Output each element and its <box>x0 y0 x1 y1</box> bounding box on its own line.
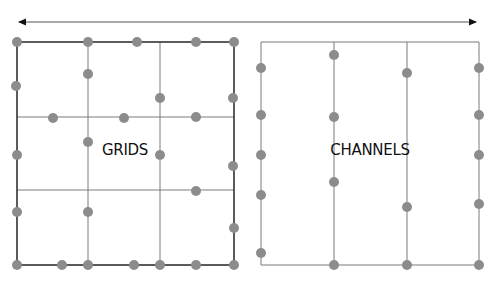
node-dot <box>191 186 201 196</box>
node-dot <box>83 69 93 79</box>
node-dot <box>83 260 93 270</box>
node-dot <box>12 37 22 47</box>
node-dot <box>402 260 412 270</box>
node-dot <box>229 223 239 233</box>
node-dot <box>155 260 165 270</box>
node-dot <box>83 37 93 47</box>
node-dot <box>228 161 238 171</box>
node-dot <box>83 137 93 147</box>
node-dot <box>256 110 266 120</box>
node-dot <box>329 50 339 60</box>
node-dot <box>11 81 21 91</box>
node-dot <box>132 37 142 47</box>
node-dot <box>474 199 484 209</box>
node-dot <box>12 150 22 160</box>
node-dot <box>402 202 412 212</box>
grids-panel: GRIDS <box>11 37 239 270</box>
node-dot <box>12 207 22 217</box>
channels-dots <box>256 50 484 270</box>
node-dot <box>228 93 238 103</box>
node-dot <box>402 68 412 78</box>
grids-label: GRIDS <box>102 141 148 159</box>
node-dot <box>229 37 239 47</box>
node-dot <box>329 112 339 122</box>
node-dot <box>155 93 165 103</box>
channels-panel: CHANNELS <box>256 42 484 270</box>
node-dot <box>329 177 339 187</box>
node-dot <box>229 260 239 270</box>
node-dot <box>256 248 266 258</box>
node-dot <box>256 150 266 160</box>
grids-vs-channels-diagram: GRIDS CHANNELS <box>0 0 493 282</box>
node-dot <box>256 190 266 200</box>
node-dot <box>83 207 93 217</box>
node-dot <box>191 112 201 122</box>
node-dot <box>474 260 484 270</box>
node-dot <box>256 63 266 73</box>
node-dot <box>155 150 165 160</box>
channels-label: CHANNELS <box>330 141 409 159</box>
node-dot <box>12 260 22 270</box>
node-dot <box>191 260 201 270</box>
node-dot <box>474 63 484 73</box>
node-dot <box>474 110 484 120</box>
node-dot <box>57 260 67 270</box>
node-dot <box>474 150 484 160</box>
node-dot <box>329 260 339 270</box>
node-dot <box>191 37 201 47</box>
node-dot <box>119 113 129 123</box>
node-dot <box>129 260 139 270</box>
node-dot <box>48 113 58 123</box>
